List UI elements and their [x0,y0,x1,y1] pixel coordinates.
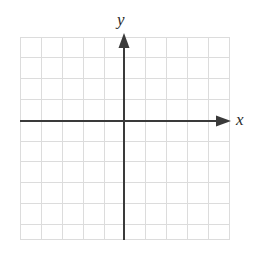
y-axis-arrowhead [119,33,130,48]
coordinate-plane-svg [0,0,256,253]
x-axis-label: x [236,111,244,128]
x-axis-arrowhead [216,116,231,127]
y-axis-label: y [117,11,125,28]
coordinate-grid-figure: y x [0,0,256,253]
x-axis [20,116,231,127]
y-axis [119,33,130,240]
